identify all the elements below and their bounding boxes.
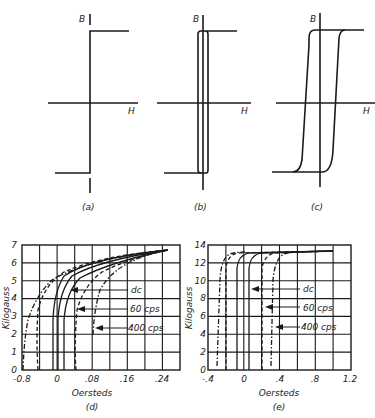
chart-e: dc 60 cps 400 cps 0 2 4 6 8 10 12 14 -.4… <box>184 240 357 412</box>
chart-e-ytick-14: 14 <box>195 240 207 250</box>
chart-e-caption: (e) <box>273 402 286 412</box>
chart-e-ytick-10: 10 <box>195 276 207 286</box>
chart-e-ann-dc: dc <box>303 284 314 294</box>
chart-a-xlabel: H <box>128 106 135 116</box>
chart-b: B H (b) <box>157 14 251 212</box>
chart-a-caption: (a) <box>82 202 95 212</box>
chart-b-ylabel: B <box>193 14 199 24</box>
chart-b-caption: (b) <box>194 202 207 212</box>
chart-c: B H (c) <box>272 13 375 212</box>
chart-b-xlabel: H <box>241 106 248 116</box>
chart-e-xlabel: Oersteds <box>259 388 300 398</box>
chart-d-ytick-3: 3 <box>11 311 17 321</box>
chart-e-ylabel: Kilogauss <box>184 286 194 329</box>
chart-d-ytick-2: 2 <box>11 329 17 339</box>
chart-e-xtick-0: -.4 <box>202 374 214 384</box>
chart-d-ylabel: Kilogauss <box>1 286 11 329</box>
chart-a-loop <box>55 31 129 173</box>
chart-d-ytick-1: 1 <box>11 347 17 357</box>
chart-e-ytick-2: 2 <box>200 347 206 357</box>
chart-e-xtick-3: .8 <box>311 374 320 384</box>
chart-e-ytick-12: 12 <box>195 258 207 268</box>
figure-canvas: B H (a) B H (b) B H (c) <box>0 0 375 418</box>
chart-a: B H (a) <box>48 14 138 212</box>
chart-e-ytick-4: 4 <box>200 329 206 339</box>
chart-e-60cps-arrowhead <box>265 304 273 310</box>
chart-d-xlabel: Oersteds <box>72 388 113 398</box>
chart-d-400cps-arrowhead <box>95 325 103 331</box>
chart-d-ytick-5: 5 <box>11 276 17 286</box>
chart-e-400cps-left <box>217 252 245 366</box>
chart-d: dc 60 cps 400 cps 0 1 2 3 4 5 6 7 -0.8 0… <box>1 240 180 412</box>
chart-d-xtick-2: .08 <box>85 374 100 384</box>
chart-d-xtick-1: 0 <box>54 374 60 384</box>
chart-b-loop <box>198 31 237 173</box>
chart-c-descending-branch <box>293 30 345 172</box>
chart-d-ann-60cps: 60 cps <box>130 304 160 314</box>
chart-d-ytick-6: 6 <box>11 258 17 268</box>
chart-e-xtick-4: 1.2 <box>343 374 358 384</box>
chart-d-caption: (d) <box>86 402 99 412</box>
chart-d-xtick-0: -0.8 <box>13 374 31 384</box>
chart-e-xtick-2: .4 <box>276 374 285 384</box>
chart-d-xtick-3: .16 <box>120 374 135 384</box>
chart-e-ann-400cps: 400 cps <box>301 322 337 332</box>
chart-e-xtick-1: 0 <box>241 374 247 384</box>
chart-c-caption: (c) <box>311 202 323 212</box>
chart-d-ytick-4: 4 <box>11 293 17 303</box>
chart-e-ytick-6: 6 <box>200 311 206 321</box>
chart-e-ytick-8: 8 <box>200 293 206 303</box>
chart-d-xtick-4: .24 <box>155 374 170 384</box>
chart-d-ytick-7: 7 <box>11 240 17 250</box>
chart-c-ascending-branch <box>272 30 364 172</box>
chart-d-ann-dc: dc <box>131 285 142 295</box>
chart-e-ann-60cps: 60 cps <box>303 303 333 313</box>
chart-c-ylabel: B <box>310 14 316 24</box>
chart-e-dc-arrowhead <box>251 286 259 292</box>
chart-d-dc-arrowhead <box>70 287 78 293</box>
chart-d-60cps-arrowhead <box>77 306 85 312</box>
chart-d-ann-400cps: 400 cps <box>128 323 164 333</box>
chart-e-400cps-right <box>271 252 300 366</box>
chart-a-ylabel: B <box>79 14 85 24</box>
chart-c-xlabel: H <box>363 106 370 116</box>
